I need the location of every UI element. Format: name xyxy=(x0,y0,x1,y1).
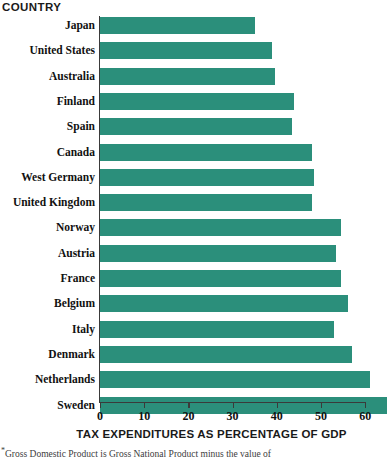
x-axis-tick xyxy=(365,402,366,408)
bar-category-label: Austria xyxy=(0,245,95,262)
bar-row: United States xyxy=(0,41,387,66)
y-axis-line xyxy=(99,16,100,402)
bar-row: Denmark xyxy=(0,345,387,370)
bar-chart-figure: COUNTRY JapanUnited StatesAustraliaFinla… xyxy=(0,0,387,464)
x-axis-tick xyxy=(321,402,322,408)
bar xyxy=(100,118,292,135)
x-axis-tick xyxy=(188,402,189,408)
bar-category-label: Canada xyxy=(0,144,95,161)
bar-row: Canada xyxy=(0,143,387,168)
bar-category-label: Netherlands xyxy=(0,371,95,388)
bar-category-label: Australia xyxy=(0,68,95,85)
bar-category-label: Spain xyxy=(0,118,95,135)
bar-category-label: Italy xyxy=(0,321,95,338)
bar xyxy=(100,321,334,338)
bar xyxy=(100,245,336,262)
x-axis-title: TAX EXPENDITURES AS PERCENTAGE OF GDP xyxy=(0,428,387,440)
bar xyxy=(100,371,370,388)
bar-category-label: Norway xyxy=(0,219,95,236)
x-axis-tick xyxy=(233,402,234,408)
x-axis-tick-label: 50 xyxy=(301,409,341,424)
bar xyxy=(100,219,341,236)
bar xyxy=(100,295,348,312)
x-axis-tick xyxy=(144,402,145,408)
bar xyxy=(100,68,275,85)
bar-category-label: United States xyxy=(0,42,95,59)
bar-row: Netherlands xyxy=(0,370,387,395)
bar-category-label: Finland xyxy=(0,93,95,110)
bar xyxy=(100,169,314,186)
bar xyxy=(100,93,294,110)
x-axis-tick-label: 60 xyxy=(345,409,385,424)
footnote-text: Gross Domestic Product is Gross National… xyxy=(5,449,271,459)
x-axis-tick-label: 40 xyxy=(257,409,297,424)
bar-row: Austria xyxy=(0,244,387,269)
x-axis-tick-label: 10 xyxy=(124,409,164,424)
bar-row: Norway xyxy=(0,218,387,243)
bar xyxy=(100,346,352,363)
y-axis-title: COUNTRY xyxy=(2,0,61,14)
footnote: *Gross Domestic Product is Gross Nationa… xyxy=(1,445,387,460)
bar-row: Australia xyxy=(0,67,387,92)
plot-area: JapanUnited StatesAustraliaFinlandSpainC… xyxy=(0,16,387,402)
x-axis-tick-label: 30 xyxy=(213,409,253,424)
x-axis-tick-label: 20 xyxy=(168,409,208,424)
bar xyxy=(100,194,312,211)
bar-category-label: Denmark xyxy=(0,346,95,363)
bar-row: Italy xyxy=(0,320,387,345)
bar-category-label: France xyxy=(0,270,95,287)
bar-row: Spain xyxy=(0,117,387,142)
bar-row: Finland xyxy=(0,92,387,117)
bar-row: France xyxy=(0,269,387,294)
bar-category-label: Japan xyxy=(0,17,95,34)
bar-row: United Kingdom xyxy=(0,193,387,218)
bar xyxy=(100,42,272,59)
bar-row: Japan xyxy=(0,16,387,41)
bar-row: West Germany xyxy=(0,168,387,193)
bar-row: Belgium xyxy=(0,294,387,319)
bar xyxy=(100,270,341,287)
x-axis-tick xyxy=(277,402,278,408)
bar xyxy=(100,144,312,161)
x-axis-tick-label: 0 xyxy=(80,409,120,424)
x-axis-tick xyxy=(100,402,101,408)
bar-category-label: Belgium xyxy=(0,295,95,312)
bar-category-label: West Germany xyxy=(0,169,95,186)
bar xyxy=(100,17,255,34)
bar-category-label: United Kingdom xyxy=(0,194,95,211)
